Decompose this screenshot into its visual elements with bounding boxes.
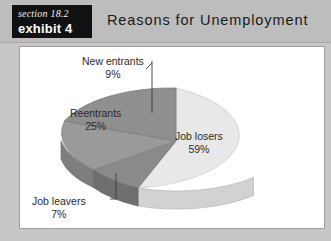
leader-line-new-entrants-elbow (146, 61, 152, 69)
pie-label-job-leavers: Job leavers 7% (32, 195, 86, 220)
pie-label-job-losers-name: Job losers (175, 130, 223, 142)
badge-section-label: section 18.2 (12, 6, 92, 20)
pie-label-reentrants: Reentrants 25% (70, 107, 121, 132)
pie-label-job-losers: Job losers 59% (175, 130, 223, 155)
pie-label-new-entrants: New entrants 9% (82, 55, 144, 80)
pie-label-new-entrants-name: New entrants (82, 55, 144, 67)
pie-label-reentrants-name: Reentrants (70, 107, 121, 119)
exhibit-badge: section 18.2 exhibit 4 (12, 5, 92, 38)
badge-exhibit-label: exhibit 4 (12, 20, 92, 36)
pie-label-job-losers-value: 59% (175, 143, 223, 156)
exhibit-header-band: section 18.2 exhibit 4 Reasons for Unemp… (0, 0, 331, 43)
exhibit-title: Reasons for Unemployment (107, 11, 308, 29)
pie-label-reentrants-value: 25% (70, 120, 121, 133)
pie-chart: New entrants 9% Reentrants 25% Job loser… (20, 47, 324, 228)
pie-label-job-leavers-value: 7% (32, 208, 86, 221)
pie-label-new-entrants-value: 9% (82, 68, 144, 81)
exhibit-figure: section 18.2 exhibit 4 Reasons for Unemp… (0, 0, 331, 241)
chart-panel: New entrants 9% Reentrants 25% Job loser… (19, 46, 325, 229)
pie-label-job-leavers-name: Job leavers (32, 195, 86, 207)
